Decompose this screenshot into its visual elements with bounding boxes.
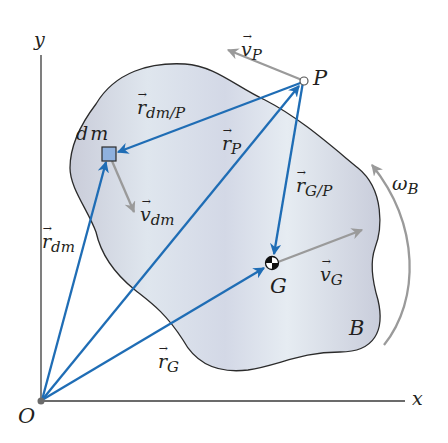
dm-element: [102, 147, 116, 161]
point-p-label: P: [313, 68, 327, 89]
rigid-body-outline: [70, 64, 380, 371]
diagram-graphics: [0, 0, 448, 443]
label-r-g-p: rG/P: [296, 176, 332, 199]
label-omega-b: ωB: [392, 174, 419, 197]
label-r-dm-p: rdm/P: [137, 98, 185, 121]
vector-r-dm: [42, 162, 106, 400]
label-v-g: vG: [320, 265, 343, 288]
origin-point: [38, 398, 45, 405]
label-r-g: rG: [158, 352, 179, 375]
label-v-p: vP: [241, 40, 262, 63]
point-p: [300, 77, 308, 85]
center-of-mass-icon: [266, 257, 279, 270]
point-g-label: G: [270, 276, 287, 297]
y-axis-label: y: [34, 30, 45, 49]
rigid-body-kinematics-diagram: y x O P G dm B rdm rP rG rdm/P rG/P vP v…: [0, 0, 448, 443]
x-axis-label: x: [412, 389, 423, 408]
label-r-dm: rdm: [42, 232, 75, 255]
body-label: B: [349, 318, 364, 339]
vector-v-p: [228, 50, 302, 80]
origin-label: O: [18, 406, 35, 427]
label-r-p: rP: [222, 134, 241, 157]
dm-label: dm: [76, 124, 110, 143]
label-v-dm: vdm: [140, 205, 175, 228]
